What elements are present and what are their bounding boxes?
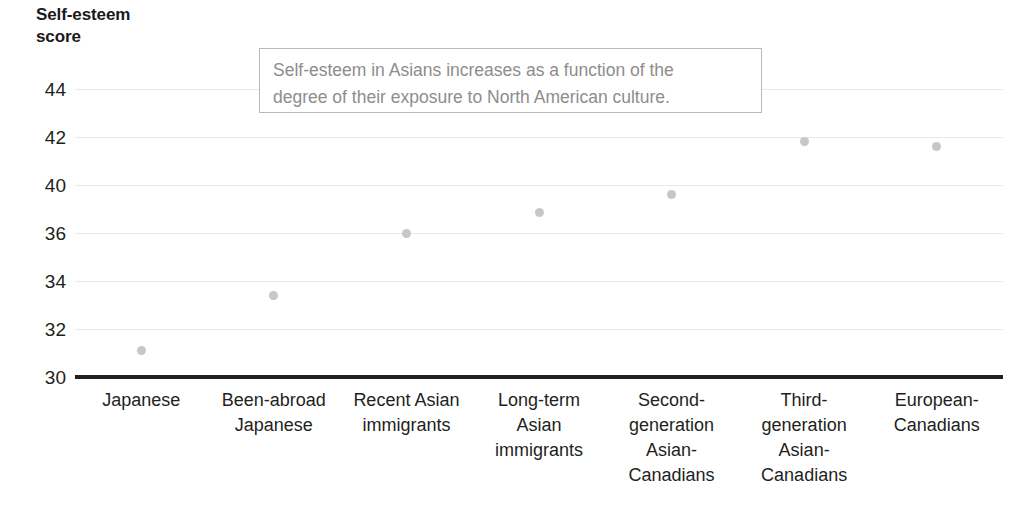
annotation-box: Self-esteem in Asians increases as a fun…: [259, 48, 762, 113]
gridline: [75, 329, 1003, 330]
x-axis-label-4: Second-generationAsian-Canadians: [605, 388, 738, 488]
x-axis-category-labels: JapaneseBeen-abroadJapaneseRecent Asiani…: [75, 388, 1003, 508]
x-axis-label-0: Japanese: [75, 388, 208, 413]
y-axis-tick-42: 42: [22, 128, 66, 147]
gridline: [75, 281, 1003, 282]
data-point: [800, 137, 809, 146]
data-point: [402, 229, 411, 238]
x-axis-label-2: Recent Asianimmigrants: [340, 388, 473, 438]
annotation-text: Self-esteem in Asians increases as a fun…: [273, 57, 753, 111]
gridline: [75, 185, 1003, 186]
y-axis-tick-30: 30: [22, 368, 66, 387]
y-axis-tick-44: 44: [22, 80, 66, 99]
data-point: [535, 208, 544, 217]
data-point: [667, 190, 676, 199]
y-axis-tick-34: 34: [22, 272, 66, 291]
x-axis-line: [75, 375, 1003, 379]
x-axis-label-5: Third-generationAsian-Canadians: [738, 388, 871, 488]
y-axis-tick-40: 40: [22, 176, 66, 195]
x-axis-label-6: European-Canadians: [870, 388, 1003, 438]
gridline: [75, 137, 1003, 138]
plot-area: [75, 89, 1003, 377]
chart-container: Self-esteemscore 44424036343230 Self-est…: [0, 0, 1033, 511]
data-point: [269, 291, 278, 300]
y-axis-tick-labels: 44424036343230: [0, 0, 66, 511]
data-point: [137, 346, 146, 355]
x-axis-label-1: Been-abroadJapanese: [208, 388, 341, 438]
y-axis-tick-36: 36: [22, 224, 66, 243]
data-point: [932, 142, 941, 151]
y-axis-tick-32: 32: [22, 320, 66, 339]
x-axis-label-3: Long-termAsianimmigrants: [473, 388, 606, 463]
gridline: [75, 233, 1003, 234]
